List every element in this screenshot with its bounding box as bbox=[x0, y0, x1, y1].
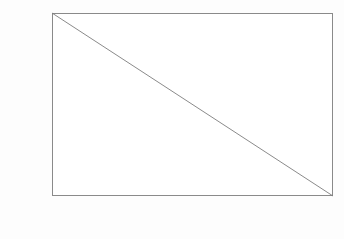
plot-canvas bbox=[52, 13, 333, 196]
fit-line bbox=[52, 13, 333, 196]
y-axis bbox=[0, 0, 52, 239]
normal-probability-plot bbox=[0, 0, 344, 239]
